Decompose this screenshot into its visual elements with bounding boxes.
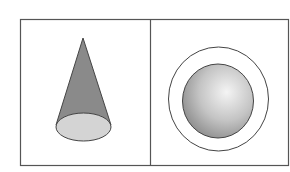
cone-shape [56, 38, 111, 141]
figure-canvas [0, 0, 290, 172]
sphere [183, 64, 254, 138]
sphere-shape [169, 47, 269, 151]
cone-base [56, 113, 111, 141]
